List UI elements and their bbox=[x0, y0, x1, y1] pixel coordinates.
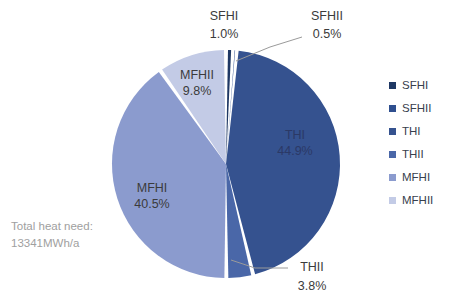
legend-swatch-icon bbox=[389, 197, 396, 204]
callout-label-sfhi-name: SFHI bbox=[210, 9, 238, 23]
legend-item-label: SFHI bbox=[402, 80, 428, 92]
slice-label-thi-pct: 44.9% bbox=[277, 144, 312, 158]
legend-item-label: MFHII bbox=[402, 195, 433, 207]
slice-label-thi-name: THI bbox=[285, 128, 305, 142]
legend-item[interactable]: MFHII bbox=[389, 189, 459, 212]
slice-label-mfhii-name: MFHII bbox=[180, 68, 214, 82]
legend-item[interactable]: MFHI bbox=[389, 166, 459, 189]
leader-line-sfhii bbox=[236, 37, 302, 61]
total-heat-need-annotation: Total heat need: 13341MWh/a bbox=[11, 218, 93, 252]
slice-label-mfhii-pct: 9.8% bbox=[183, 84, 212, 98]
legend-item[interactable]: SFHII bbox=[389, 97, 459, 120]
pie-chart: THI 44.9% MFHI 40.5% MFHII 9.8% SFHI 1.0… bbox=[0, 0, 459, 302]
callout-label-thii-pct: 3.8% bbox=[298, 279, 327, 293]
callout-label-thii-name: THII bbox=[300, 260, 324, 274]
legend-swatch-icon bbox=[389, 82, 396, 89]
legend-item-label: THII bbox=[402, 149, 424, 161]
legend-swatch-icon bbox=[389, 105, 396, 112]
legend-item[interactable]: THI bbox=[389, 120, 459, 143]
legend-item-label: SFHII bbox=[402, 103, 431, 115]
legend-swatch-icon bbox=[389, 128, 396, 135]
slice-label-mfhi-name: MFHI bbox=[137, 181, 168, 195]
legend-swatch-icon bbox=[389, 151, 396, 158]
legend-item-label: THI bbox=[402, 126, 421, 138]
annotation-line-2: 13341MWh/a bbox=[11, 235, 93, 252]
callout-label-sfhii-pct: 0.5% bbox=[313, 27, 342, 41]
slice-label-mfhi-pct: 40.5% bbox=[134, 197, 169, 211]
pie-slices-group bbox=[112, 50, 340, 278]
callout-label-sfhi-pct: 1.0% bbox=[210, 27, 239, 41]
legend-item[interactable]: SFHI bbox=[389, 74, 459, 97]
legend-item-label: MFHI bbox=[402, 172, 430, 184]
chart-legend: SFHI SFHII THI THII MFHI MFHII bbox=[389, 74, 459, 212]
legend-swatch-icon bbox=[389, 174, 396, 181]
legend-item[interactable]: THII bbox=[389, 143, 459, 166]
callout-label-sfhii-name: SFHII bbox=[311, 9, 343, 23]
annotation-line-1: Total heat need: bbox=[11, 218, 93, 235]
